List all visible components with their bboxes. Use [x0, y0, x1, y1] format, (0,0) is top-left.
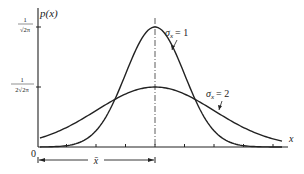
plot-svg: p(x) 1 √2π 1 2√2π σx= 1 σx= 2 x 0 x̄ [0, 0, 304, 174]
ytick2-den: 2√2π [15, 86, 29, 93]
ytick2-num: 1 [20, 76, 23, 83]
sigma2-label: σx= 2 [206, 88, 229, 101]
y-axis-label: p(x) [39, 7, 58, 20]
x-axis-label: x [288, 133, 294, 144]
curve-sigma-2 [40, 87, 282, 141]
origin-label: 0 [31, 148, 36, 159]
ytick1-den: √2π [20, 26, 31, 33]
gaussian-figure: p(x) 1 √2π 1 2√2π σx= 1 σx= 2 x 0 x̄ [0, 0, 304, 174]
ytick1-num: 1 [23, 16, 26, 23]
mean-label: x̄ [93, 155, 99, 166]
